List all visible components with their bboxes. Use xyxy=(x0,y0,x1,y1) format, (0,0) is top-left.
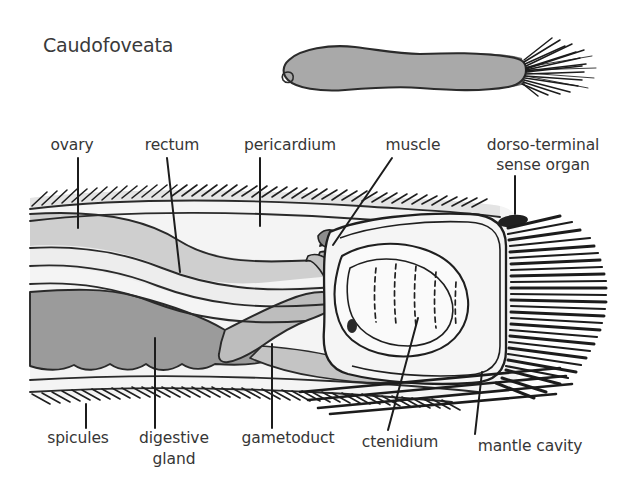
habitus-bristle-tuft xyxy=(522,38,586,96)
figure-title: Caudofoveata xyxy=(43,34,173,56)
label-mantle-cavity: mantle cavity xyxy=(478,437,583,455)
ctenidium-base-nodule xyxy=(347,319,357,333)
caudofoveata-figure: Caudofoveata xyxy=(0,0,643,495)
label-digestive-gland-line1: digestive xyxy=(139,429,209,447)
habitus-body xyxy=(284,46,526,90)
whole-animal-drawing xyxy=(282,38,596,96)
label-ctenidium: ctenidium xyxy=(362,433,438,451)
label-digestive-gland-line2: gland xyxy=(153,450,196,468)
label-dorso-terminal-sense-organ-line1: dorso-terminal xyxy=(487,136,599,154)
label-ovary: ovary xyxy=(50,136,93,154)
label-gametoduct: gametoduct xyxy=(242,429,335,447)
label-rectum: rectum xyxy=(145,136,200,154)
label-muscle: muscle xyxy=(386,136,441,154)
label-dorso-terminal-sense-organ-line2: sense organ xyxy=(496,156,590,174)
label-pericardium: pericardium xyxy=(244,136,336,154)
label-spicules: spicules xyxy=(47,429,109,447)
longitudinal-section xyxy=(30,185,606,414)
